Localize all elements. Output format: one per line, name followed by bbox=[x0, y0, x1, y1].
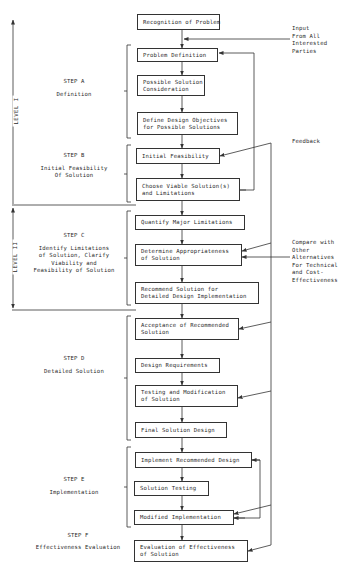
box-implement-design: Implement Recommended Design bbox=[135, 452, 252, 468]
box-choose-viable: Choose Viable Solution(s) and Limitation… bbox=[136, 178, 240, 201]
box-determine-appropriateness: Determine Appropriateness of Solution bbox=[135, 244, 242, 266]
box-text: Solution bbox=[141, 329, 233, 336]
box-recognition: Recognition of Problem bbox=[137, 14, 220, 30]
level-1-label: LEVEL I bbox=[13, 95, 19, 126]
annotation-line: Compare with bbox=[292, 239, 338, 247]
box-text: Choose Viable Solution(s) bbox=[142, 183, 234, 190]
step-c-subtitle-line: of Solution, Clarify bbox=[26, 252, 122, 260]
box-text: Evaluation of Effectiveness bbox=[140, 544, 242, 551]
box-modified-implementation: Modified Implementation bbox=[134, 510, 234, 525]
box-text: Quantify Major Limitations bbox=[141, 219, 239, 226]
box-define-objectives: Define Design Objectives for Possible So… bbox=[137, 112, 238, 135]
step-c-label: STEP C Identify Limitations of Solution,… bbox=[26, 232, 122, 275]
annotation-line: From All bbox=[292, 33, 327, 41]
box-quantify-limitations: Quantify Major Limitations bbox=[135, 215, 245, 230]
step-d-title: STEP D bbox=[30, 355, 118, 363]
annotation-line: Other bbox=[292, 247, 338, 255]
flowchart-canvas: LEVEL I LEVEL II STEP A Definition STEP … bbox=[0, 0, 351, 575]
step-a-title: STEP A bbox=[30, 78, 118, 86]
step-a-label: STEP A Definition bbox=[30, 78, 118, 98]
annotation-line: Alternatives bbox=[292, 254, 338, 262]
step-b-label: STEP B Initial Feasibility Of Solution bbox=[30, 152, 118, 180]
step-b-subtitle-line: Of Solution bbox=[30, 172, 118, 180]
box-text: Initial Feasibility bbox=[142, 153, 214, 160]
step-b-title: STEP B bbox=[30, 152, 118, 160]
box-text: Solution Testing bbox=[140, 485, 203, 492]
box-recommend-solution: Recommend Solution for Detailed Design I… bbox=[135, 282, 259, 304]
step-d-subtitle: Detailed Solution bbox=[30, 368, 118, 376]
box-text: Acceptance of Recommended bbox=[141, 322, 233, 329]
step-c-subtitle-line: Identify Limitations bbox=[26, 245, 122, 253]
box-text: Problem Definition bbox=[143, 52, 212, 59]
step-e-title: STEP E bbox=[30, 476, 118, 484]
box-solution-testing: Solution Testing bbox=[134, 481, 209, 496]
annotation-line: Feedback bbox=[292, 138, 320, 146]
box-text: Modified Implementation bbox=[140, 514, 228, 521]
box-text: Design Requirements bbox=[141, 362, 214, 369]
box-text: for Possible Solutions bbox=[143, 124, 232, 131]
step-f-label: STEP F Effectiveness Evaluation bbox=[28, 532, 128, 551]
annotation-line: Interested bbox=[292, 40, 327, 48]
box-testing-modification: Testing and Modification of Solution bbox=[135, 385, 238, 407]
feedback-annotation: Feedback bbox=[292, 138, 320, 146]
annotation-line: and Cost- bbox=[292, 269, 338, 277]
box-problem-definition: Problem Definition bbox=[137, 48, 218, 62]
box-text: Recognition of Problem bbox=[143, 19, 214, 26]
box-initial-feasibility: Initial Feasibility bbox=[136, 148, 220, 164]
box-text: of Solution bbox=[141, 396, 232, 403]
box-text: Possible Solution bbox=[143, 79, 199, 86]
annotation-line: Effectiveness bbox=[292, 277, 338, 285]
step-b-subtitle-line: Initial Feasibility bbox=[30, 165, 118, 173]
annotation-line: Input bbox=[292, 25, 327, 33]
box-text: Final Solution Design bbox=[141, 427, 221, 434]
compare-annotation: Compare with Other Alternatives For Tech… bbox=[292, 239, 338, 284]
box-text: Detailed Design Implementation bbox=[141, 293, 253, 300]
box-text: Recommend Solution for bbox=[141, 286, 253, 293]
input-annotation: Input From All Interested Parties bbox=[292, 25, 327, 55]
box-acceptance: Acceptance of Recommended Solution bbox=[135, 318, 239, 340]
annotation-line: For Technical bbox=[292, 262, 338, 270]
box-text: Consideration bbox=[143, 86, 199, 93]
step-e-label: STEP E Implementation bbox=[30, 476, 118, 496]
level-2-label: LEVEL II bbox=[12, 240, 18, 275]
box-text: Define Design Objectives bbox=[143, 117, 232, 124]
box-final-design: Final Solution Design bbox=[135, 422, 227, 438]
step-e-subtitle: Implementation bbox=[30, 489, 118, 497]
annotation-line: Parties bbox=[292, 48, 327, 56]
box-text: Implement Recommended Design bbox=[141, 457, 246, 464]
box-design-requirements: Design Requirements bbox=[135, 358, 220, 373]
step-c-title: STEP C bbox=[26, 232, 122, 240]
step-a-subtitle: Definition bbox=[30, 91, 118, 99]
box-text: of Solution bbox=[140, 551, 242, 558]
box-text: of Solution bbox=[141, 255, 236, 262]
step-c-subtitle-line: Feasibility of Solution bbox=[26, 267, 122, 275]
step-f-title: STEP F bbox=[28, 532, 128, 540]
box-evaluation: Evaluation of Effectiveness of Solution bbox=[134, 540, 248, 562]
step-c-subtitle-line: Viability and bbox=[26, 260, 122, 268]
box-text: and Limitations bbox=[142, 190, 234, 197]
step-d-label: STEP D Detailed Solution bbox=[30, 355, 118, 375]
step-f-subtitle: Effectiveness Evaluation bbox=[28, 544, 128, 552]
box-text: Determine Appropriateness bbox=[141, 248, 236, 255]
box-possible-solution: Possible Solution Consideration bbox=[137, 75, 205, 96]
box-text: Testing and Modification bbox=[141, 389, 232, 396]
